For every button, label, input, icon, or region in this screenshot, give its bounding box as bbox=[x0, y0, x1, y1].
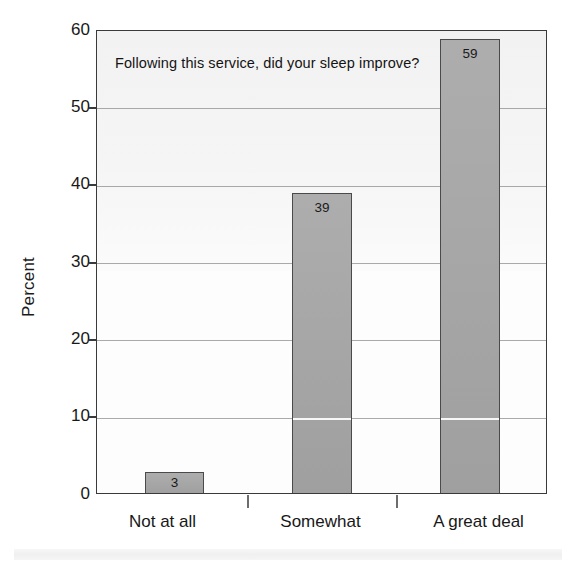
x-tick-mark-2 bbox=[396, 495, 398, 508]
bar-chart-figure: Percent 60 50 40 30 20 10 0 Following th… bbox=[0, 0, 574, 566]
x-tick-label-somewhat: Somewhat bbox=[258, 512, 383, 532]
y-tick-label-50: 50 bbox=[48, 97, 90, 117]
y-tick-label-20: 20 bbox=[48, 329, 90, 349]
x-tick-label-not-at-all: Not at all bbox=[100, 512, 225, 532]
bar-gridline-overlay bbox=[293, 418, 351, 420]
bar-a-great-deal[interactable]: 59 bbox=[440, 39, 500, 494]
y-axis-title-text: Percent bbox=[19, 257, 39, 317]
y-tick-label-40: 40 bbox=[48, 174, 90, 194]
scan-artifact-strip bbox=[14, 549, 562, 560]
bar-value-not-at-all: 3 bbox=[146, 475, 203, 490]
y-tick-mark-30 bbox=[89, 262, 96, 264]
y-tick-label-30: 30 bbox=[48, 252, 90, 272]
bar-not-at-all[interactable]: 3 bbox=[145, 472, 204, 494]
bar-value-a-great-deal: 59 bbox=[441, 46, 499, 61]
y-axis-title: Percent bbox=[14, 232, 44, 342]
y-tick-mark-10 bbox=[89, 416, 96, 418]
bar-value-somewhat: 39 bbox=[293, 200, 351, 215]
plot-area: Following this service, did your sleep i… bbox=[96, 30, 547, 494]
y-tick-label-0: 0 bbox=[48, 484, 90, 504]
x-tick-mark-1 bbox=[247, 495, 249, 508]
bar-gridline-overlay bbox=[441, 418, 499, 420]
y-tick-mark-50 bbox=[89, 107, 96, 109]
y-tick-mark-40 bbox=[89, 184, 96, 186]
chart-title: Following this service, did your sleep i… bbox=[115, 55, 420, 71]
y-tick-label-60: 60 bbox=[48, 20, 90, 40]
y-tick-mark-20 bbox=[89, 339, 96, 341]
bar-somewhat[interactable]: 39 bbox=[292, 193, 352, 494]
x-tick-label-a-great-deal: A great deal bbox=[406, 512, 551, 532]
y-tick-label-10: 10 bbox=[48, 406, 90, 426]
